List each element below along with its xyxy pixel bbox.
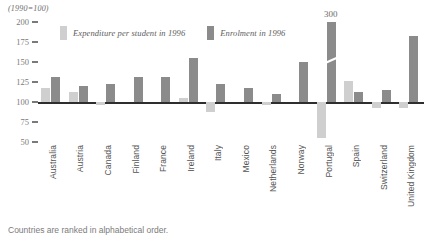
bar-expenditure-portugal (317, 102, 326, 138)
y-tick-label: 125 (16, 77, 29, 87)
y-tick-label: 200 (16, 17, 29, 27)
category-label-text: Mexico (241, 145, 251, 173)
bar-enrolment-france (161, 77, 170, 102)
bar-group: 300 (316, 22, 344, 142)
bar-expenditure-australia (41, 88, 50, 102)
bar-enrolment-spain (354, 92, 363, 102)
bar-enrolment-netherlands (272, 94, 281, 102)
bar-enrolment-mexico (244, 88, 253, 102)
category-label-text: Ireland (186, 145, 196, 172)
x-axis-label-ireland: Ireland (181, 145, 201, 172)
x-axis-label-united-kingdom: United Kingdom (401, 145, 421, 207)
category-label-text: Portugal (324, 145, 334, 177)
category-label-text: United Kingdom (406, 145, 416, 207)
legend-label-enrolment: Enrolment in 1996 (220, 28, 285, 38)
y-tick-label: 150 (16, 57, 29, 67)
category-label-text: Norway (296, 145, 306, 174)
legend: Expenditure per student in 1996Enrolment… (60, 25, 307, 41)
x-axis-label-switzerland: Switzerland (374, 145, 394, 190)
bar-enrolment-canada (106, 84, 115, 102)
category-label-text: Canada (103, 145, 113, 175)
x-axis-label-spain: Spain (346, 145, 366, 167)
bar-group (398, 22, 426, 142)
x-axis-label-portugal: Portugal (319, 145, 339, 177)
legend-swatch-enrolment (207, 26, 214, 40)
y-tick-150: 150 (16, 57, 38, 67)
x-axis-label-australia: Australia (43, 145, 63, 179)
legend-item-enrolment[interactable]: Enrolment in 1996 (207, 26, 285, 40)
legend-label-expenditure: Expenditure per student in 1996 (73, 28, 185, 38)
bar-enrolment-norway (299, 62, 308, 102)
x-axis-label-austria: Austria (70, 145, 90, 172)
x-axis-label-france: France (153, 145, 173, 172)
bar-group (371, 22, 399, 142)
unit-note: (1990=100) (8, 4, 49, 13)
value-label-portugal-300: 300 (324, 9, 338, 19)
bar-enrolment-ireland (189, 58, 198, 102)
bar-expenditure-netherlands (262, 102, 271, 105)
bar-expenditure-canada (96, 102, 105, 105)
y-tick-label: 75 (21, 117, 30, 127)
bar-group (343, 22, 371, 142)
bar-enrolment-italy (216, 84, 225, 102)
y-tick-label: 175 (16, 37, 29, 47)
y-tick-label: 50 (21, 137, 30, 147)
category-label-text: Austria (75, 145, 85, 172)
bar-expenditure-italy (206, 102, 215, 112)
x-axis-category-labels: AustraliaAustriaCanadaFinlandFranceIrela… (38, 145, 424, 215)
legend-item-expenditure[interactable]: Expenditure per student in 1996 (60, 26, 185, 40)
enrolment-expenditure-bar-chart: (1990=100) 2001751501251007550 300 Expen… (0, 0, 430, 243)
y-tick-100: 100 (16, 97, 38, 107)
x-axis-label-netherlands: Netherlands (263, 145, 283, 192)
bar-enrolment-austria (79, 86, 88, 102)
bar-enrolment-united-kingdom (409, 36, 418, 102)
x-axis-label-mexico: Mexico (236, 145, 256, 173)
y-tick-200: 200 (16, 17, 38, 27)
y-tick-label: 100 (16, 97, 29, 107)
category-label-text: Switzerland (379, 145, 389, 190)
category-label-text: Italy (213, 145, 223, 161)
bar-enrolment-portugal (327, 22, 336, 102)
y-tick-125: 125 (16, 77, 38, 87)
bar-expenditure-ireland (179, 98, 188, 102)
category-label-text: Spain (351, 145, 361, 167)
bar-expenditure-switzerland (372, 102, 381, 108)
chart-caption: Countries are ranked in alphabetical ord… (8, 225, 168, 235)
y-axis: 2001751501251007550 (0, 22, 38, 142)
category-label-text: France (158, 145, 168, 172)
y-tick-175: 175 (16, 37, 38, 47)
x-axis-label-norway: Norway (291, 145, 311, 174)
bar-expenditure-united-kingdom (399, 102, 408, 108)
y-tick-50: 50 (21, 137, 39, 147)
x-axis-label-italy: Italy (208, 145, 228, 161)
bar-enrolment-finland (134, 77, 143, 102)
bar-expenditure-austria (69, 92, 78, 102)
bar-enrolment-switzerland (382, 90, 391, 102)
bar-expenditure-spain (344, 81, 353, 102)
x-axis-label-finland: Finland (126, 145, 146, 174)
x-axis-label-canada: Canada (98, 145, 118, 175)
category-label-text: Netherlands (268, 145, 278, 192)
y-tick-75: 75 (21, 117, 39, 127)
category-label-text: Finland (131, 145, 141, 174)
category-label-text: Australia (48, 145, 58, 179)
bar-enrolment-australia (51, 77, 60, 102)
legend-swatch-expenditure (60, 26, 67, 40)
